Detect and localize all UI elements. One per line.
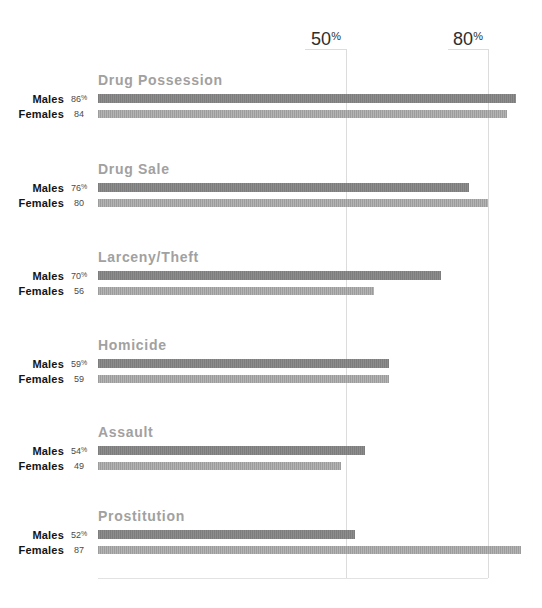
bar-value: 70% <box>64 271 94 281</box>
category-heading: Homicide <box>98 337 167 353</box>
tick-bracket-line <box>448 49 488 50</box>
axis-baseline <box>98 578 488 579</box>
gridline-50 <box>346 49 347 578</box>
series-label: Males <box>0 270 64 282</box>
bar-row-males: Males 59% <box>0 357 542 370</box>
axis-tick-label: 80% <box>438 29 498 50</box>
males-bar <box>98 271 441 280</box>
bar-row-females: Females 49 <box>0 459 542 472</box>
series-label: Males <box>0 93 64 105</box>
bar-row-males: Males 52% <box>0 528 542 541</box>
gridline-80 <box>488 49 489 578</box>
bar-row-males: Males 54% <box>0 444 542 457</box>
axis-tick-label: 50% <box>296 29 356 50</box>
bar-row-males: Males 76% <box>0 181 542 194</box>
bar-value: 56 <box>64 286 94 296</box>
tick-bracket-line <box>305 49 346 50</box>
bar-value: 52% <box>64 530 94 540</box>
bar-row-females: Females 59 <box>0 372 542 385</box>
category-heading: Drug Possession <box>98 72 223 88</box>
series-label: Females <box>0 373 64 385</box>
females-bar <box>98 287 374 295</box>
bar-value: 59% <box>64 359 94 369</box>
percent-suffix: % <box>331 30 341 42</box>
bar-value: 54% <box>64 446 94 456</box>
bar-value: 49 <box>64 461 94 471</box>
males-bar <box>98 530 355 539</box>
males-bar <box>98 183 469 192</box>
males-bar <box>98 359 389 368</box>
category-heading: Larceny/Theft <box>98 249 199 265</box>
series-label: Females <box>0 544 64 556</box>
series-label: Females <box>0 108 64 120</box>
category-heading: Prostitution <box>98 508 185 524</box>
bar-row-females: Females 84 <box>0 107 542 120</box>
males-bar <box>98 446 365 455</box>
series-label: Females <box>0 460 64 472</box>
females-bar <box>98 110 507 118</box>
bar-row-females: Females 87 <box>0 543 542 556</box>
series-label: Males <box>0 182 64 194</box>
series-label: Females <box>0 197 64 209</box>
females-bar <box>98 375 389 383</box>
percent-suffix: % <box>473 30 483 42</box>
females-bar <box>98 546 521 554</box>
series-label: Males <box>0 445 64 457</box>
bar-value: 87 <box>64 545 94 555</box>
series-label: Males <box>0 529 64 541</box>
bar-value: 80 <box>64 198 94 208</box>
bar-value: 84 <box>64 109 94 119</box>
series-label: Males <box>0 358 64 370</box>
bar-row-females: Females 56 <box>0 284 542 297</box>
bar-chart: 50% 80% Drug Possession Males 86% Female… <box>0 0 542 608</box>
series-label: Females <box>0 285 64 297</box>
bar-row-males: Males 70% <box>0 269 542 282</box>
category-heading: Drug Sale <box>98 161 170 177</box>
bar-row-males: Males 86% <box>0 92 542 105</box>
bar-value: 59 <box>64 374 94 384</box>
bar-value: 76% <box>64 183 94 193</box>
males-bar <box>98 94 516 103</box>
females-bar <box>98 462 341 470</box>
bar-row-females: Females 80 <box>0 196 542 209</box>
bar-value: 86% <box>64 94 94 104</box>
females-bar <box>98 199 488 207</box>
category-heading: Assault <box>98 424 153 440</box>
